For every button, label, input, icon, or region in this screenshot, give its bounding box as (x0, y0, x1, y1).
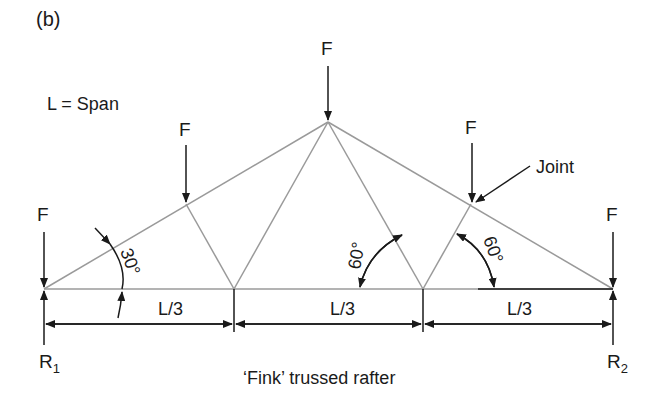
angle-label-60-left: 60° (344, 240, 368, 270)
web-right-inner (328, 122, 423, 289)
force-label-right-support: F (606, 204, 618, 225)
angle-label-30: 30° (116, 246, 144, 278)
reaction-label-left: R1 (39, 351, 60, 376)
dim-label-middle: L/3 (330, 299, 355, 319)
dim-label-left: L/3 (158, 299, 183, 319)
joint-callout-arrow (476, 166, 530, 202)
angle-arcs (95, 228, 494, 318)
arc-60deg-left (360, 235, 402, 287)
caption: ‘Fink’ trussed rafter (243, 368, 395, 388)
span-legend: L = Span (47, 94, 119, 114)
web-left-inner (234, 122, 328, 289)
force-label-right-joint: F (465, 117, 477, 138)
force-label-apex: F (321, 38, 333, 59)
dim-label-right: L/3 (507, 299, 532, 319)
angle-label-60-right: 60° (479, 234, 507, 266)
web-left-outer (186, 204, 234, 289)
web-right-outer (423, 204, 471, 289)
panel-label: (b) (36, 8, 60, 30)
fink-truss-diagram: (b) L = Span F F F F F Joint 30° 60° 60°… (0, 0, 656, 408)
force-label-left-joint: F (179, 119, 191, 140)
arc-30deg (95, 228, 110, 244)
reaction-label-right: R2 (607, 351, 628, 376)
joint-label: Joint (536, 157, 574, 177)
force-label-left-support: F (37, 204, 49, 225)
